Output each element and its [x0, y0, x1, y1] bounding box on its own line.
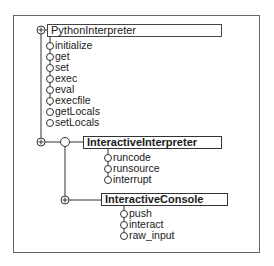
class-box-interactive-console[interactable]: InteractiveConsole: [101, 193, 228, 206]
class-box-interactive-interpreter[interactable]: InteractiveInterpreter: [83, 136, 222, 149]
method-label: setLocals: [55, 117, 99, 128]
class-box-python-interpreter[interactable]: PythonInterpreter: [47, 24, 222, 37]
method-label: interrupt: [113, 174, 152, 185]
method-label: raw_input: [129, 230, 175, 241]
circle-icon: [61, 138, 70, 147]
